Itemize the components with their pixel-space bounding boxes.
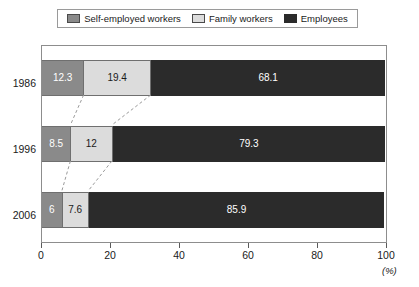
bar-segment-employees-2006: 85.9 — [89, 192, 384, 228]
category-label-1996: 1996 — [13, 144, 36, 155]
x-axis-tick — [317, 243, 318, 248]
legend-swatch-icon — [67, 14, 80, 23]
bar-value-label: 12.3 — [53, 73, 72, 83]
legend-swatch-icon — [284, 14, 297, 23]
category-label-1986: 1986 — [13, 78, 36, 89]
legend-swatch-icon — [192, 14, 205, 23]
bar-value-label: 79.3 — [239, 139, 258, 149]
legend-item-employees: Employees — [284, 14, 348, 24]
bar-segment-employees-1986: 68.1 — [151, 60, 385, 96]
category-label-2006: 2006 — [13, 210, 36, 221]
x-axis-tick-label: 80 — [311, 250, 323, 261]
x-axis-tick-label: 20 — [104, 250, 116, 261]
legend-label: Self-employed workers — [84, 14, 181, 24]
legend-label: Family workers — [209, 14, 273, 24]
bar-value-label: 12 — [86, 139, 97, 149]
bar-segment-self-employed-1986: 12.3 — [42, 60, 84, 96]
bar-segment-family-2006: 7.6 — [63, 192, 89, 228]
x-axis-tick-label: 0 — [38, 250, 44, 261]
bar-value-label: 8.5 — [49, 139, 63, 149]
bar-value-label: 7.6 — [68, 205, 82, 215]
x-axis-tick — [386, 243, 387, 248]
plot-area: 12.3 19.4 68.1 8.5 12 79.3 6 — [41, 45, 387, 243]
x-axis-tick-label: 40 — [173, 250, 185, 261]
bar-row: 12.3 19.4 68.1 — [42, 60, 386, 96]
x-axis-tick-label: 100 — [377, 250, 395, 261]
legend-label: Employees — [301, 14, 348, 24]
x-axis: 0 20 40 60 80 100 — [41, 243, 387, 244]
bars-container: 12.3 19.4 68.1 8.5 12 79.3 6 — [42, 46, 386, 242]
legend-item-self-employed-workers: Self-employed workers — [67, 14, 181, 24]
bar-segment-self-employed-1996: 8.5 — [42, 126, 71, 162]
bar-value-label: 19.4 — [107, 73, 126, 83]
x-axis-tick-label: 60 — [242, 250, 254, 261]
bar-row: 6 7.6 85.9 — [42, 192, 386, 228]
chart-legend: Self-employed workers Family workers Emp… — [57, 9, 358, 28]
bar-row: 8.5 12 79.3 — [42, 126, 386, 162]
legend-item-family-workers: Family workers — [192, 14, 273, 24]
x-axis-unit-label: (%) — [382, 266, 397, 276]
bar-value-label: 68.1 — [258, 73, 277, 83]
x-axis-tick — [41, 243, 42, 248]
bar-value-label: 6 — [49, 205, 55, 215]
bar-segment-self-employed-2006: 6 — [42, 192, 63, 228]
x-axis-tick — [110, 243, 111, 248]
bar-segment-family-1986: 19.4 — [84, 60, 151, 96]
bar-segment-employees-1996: 79.3 — [113, 126, 386, 162]
bar-segment-family-1996: 12 — [71, 126, 112, 162]
bar-value-label: 85.9 — [227, 205, 246, 215]
x-axis-tick — [248, 243, 249, 248]
x-axis-tick — [179, 243, 180, 248]
